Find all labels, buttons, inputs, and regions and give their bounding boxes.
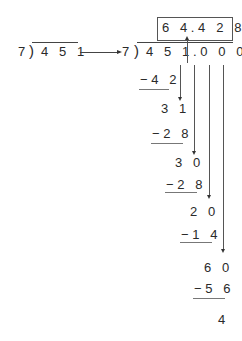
bring-down-arrow-4 bbox=[221, 249, 225, 253]
step-2-underline bbox=[151, 143, 183, 144]
bring-down-line-3 bbox=[209, 65, 210, 197]
step-5-subtract: −5 6 bbox=[194, 282, 234, 296]
bring-down-line-1 bbox=[180, 65, 181, 99]
transform-arrow-line bbox=[80, 52, 118, 53]
step-1-subtract: −4 2 bbox=[140, 73, 180, 87]
right-division-bracket: ) bbox=[134, 43, 139, 59]
bring-down-line-4 bbox=[223, 65, 224, 251]
step-3-remainder: 2 0 bbox=[190, 205, 219, 219]
right-divisor: 7 bbox=[122, 45, 133, 59]
step-5-remainder: 4 bbox=[218, 313, 229, 327]
step-3-subtract: −2 8 bbox=[166, 178, 206, 192]
step-4-subtract: −1 4 bbox=[181, 228, 221, 242]
left-division-bracket: ) bbox=[29, 43, 34, 59]
left-divisor: 7 bbox=[18, 45, 29, 59]
quotient: 6 4.4 2 8 bbox=[162, 21, 242, 35]
step-1-remainder: 3 1 bbox=[161, 102, 190, 116]
decimal-up-arrow-icon bbox=[185, 36, 189, 40]
step-5-underline bbox=[193, 298, 225, 299]
step-4-underline bbox=[180, 242, 212, 243]
bring-down-line-2 bbox=[194, 65, 195, 153]
step-1-underline bbox=[139, 89, 169, 90]
step-2-remainder: 3 0 bbox=[175, 156, 204, 170]
decimal-up-arrow-line bbox=[187, 39, 188, 63]
left-vinculum bbox=[32, 42, 78, 43]
right-dividend: 4 5 1.0 0 0 bbox=[146, 45, 242, 59]
step-2-subtract: −2 8 bbox=[152, 127, 192, 141]
right-vinculum bbox=[137, 42, 233, 43]
step-3-underline bbox=[165, 192, 197, 193]
step-4-remainder: 6 0 bbox=[204, 261, 233, 275]
bring-down-arrow-3 bbox=[207, 195, 211, 199]
